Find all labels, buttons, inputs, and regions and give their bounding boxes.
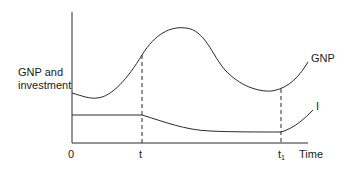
x-tick-t: t <box>139 148 142 161</box>
gnp-curve <box>72 28 308 98</box>
x-axis-label: Time <box>299 148 323 161</box>
y-axis-label-line2: investment <box>18 79 71 92</box>
y-axis-label-line1: GNP and <box>18 66 71 79</box>
x-tick-t1-subscript: 1 <box>281 154 285 161</box>
x-tick-t1: t1 <box>278 148 285 164</box>
investment-curve <box>72 110 313 132</box>
gnp-curve-label: GNP <box>311 52 335 65</box>
diagram: GNP and investment 0 t t1 Time GNP I <box>0 0 351 172</box>
y-axis-label: GNP and investment <box>18 66 71 92</box>
x-tick-origin: 0 <box>68 148 74 161</box>
investment-curve-label: I <box>316 100 319 113</box>
